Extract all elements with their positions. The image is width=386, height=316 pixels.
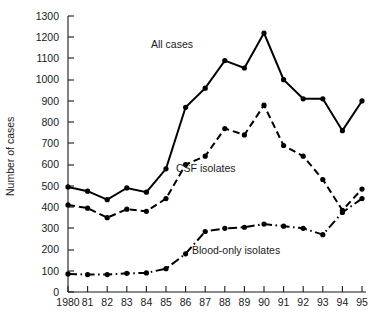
series-label-blood-only-isolates: Blood-only isolates: [192, 244, 280, 256]
x-tick-label: 95: [356, 296, 368, 308]
data-point: [144, 190, 149, 195]
data-point: [242, 65, 247, 70]
data-point: [124, 207, 129, 212]
data-point: [203, 86, 208, 91]
x-tick-label: 89: [239, 296, 251, 308]
data-point: [281, 143, 286, 148]
series-annotations: All cases CSF isolates Blood-only isolat…: [151, 38, 280, 256]
data-point: [242, 132, 247, 137]
data-point: [301, 96, 306, 101]
data-point: [340, 128, 345, 133]
data-point: [183, 251, 188, 256]
data-point: [85, 206, 90, 211]
x-tick-label: 88: [219, 296, 231, 308]
y-tick-label: 1200: [36, 31, 60, 43]
y-axis-ticks: [68, 16, 74, 292]
x-tick-label: 86: [180, 296, 192, 308]
data-point: [65, 184, 70, 189]
data-point: [163, 196, 168, 201]
data-point: [203, 229, 208, 234]
line-chart: Number of cases 0 100 200 300 400 500 60…: [0, 0, 386, 316]
series-all-cases: [65, 30, 364, 202]
x-tick-label: 84: [141, 296, 153, 308]
data-point: [340, 210, 345, 215]
data-point: [124, 271, 129, 276]
data-point: [320, 232, 325, 237]
data-point: [85, 189, 90, 194]
data-point: [163, 166, 168, 171]
x-tick-label: 91: [278, 296, 290, 308]
y-axis-title: Number of cases: [4, 117, 16, 196]
y-tick-label: 400: [41, 201, 59, 213]
x-tick-label: 81: [82, 296, 94, 308]
data-point: [144, 209, 149, 214]
data-point: [359, 196, 364, 201]
data-point: [222, 226, 227, 231]
data-point: [144, 270, 149, 275]
x-tick-label: 92: [297, 296, 309, 308]
data-point: [242, 225, 247, 230]
y-tick-label: 700: [41, 137, 59, 149]
y-tick-label: 900: [41, 95, 59, 107]
data-point: [281, 77, 286, 82]
data-point: [65, 202, 70, 207]
data-point: [359, 186, 364, 191]
y-tick-label: 1300: [36, 10, 60, 22]
x-tick-label: 93: [317, 296, 329, 308]
data-point: [203, 154, 208, 159]
data-point: [359, 98, 364, 103]
data-point: [301, 226, 306, 231]
data-point: [222, 126, 227, 131]
series-label-all-cases: All cases: [151, 38, 193, 50]
y-tick-label: 1000: [36, 73, 60, 85]
y-tick-label: 300: [41, 222, 59, 234]
x-tick-label: 94: [337, 296, 349, 308]
data-point: [124, 185, 129, 190]
data-point: [222, 58, 227, 63]
series-line: [68, 199, 362, 275]
data-point: [261, 221, 266, 226]
x-axis-tick-labels: 1980 81 82 83 84 85 86 87 88 89 90 91 92…: [56, 296, 368, 308]
y-tick-label: 600: [41, 158, 59, 170]
chart-container: Number of cases 0 100 200 300 400 500 60…: [0, 0, 386, 316]
x-tick-label: 82: [101, 296, 113, 308]
y-tick-label: 500: [41, 180, 59, 192]
data-point: [320, 177, 325, 182]
x-tick-label: 83: [121, 296, 133, 308]
y-axis-tick-labels: 0 100 200 300 400 500 600 700 800 900 10…: [36, 10, 60, 298]
data-point: [65, 271, 70, 276]
x-tick-label: 1980: [56, 296, 80, 308]
data-point: [261, 103, 266, 108]
series-layer: [65, 30, 364, 277]
data-point: [105, 215, 110, 220]
data-point: [261, 30, 266, 35]
x-tick-label: 90: [258, 296, 270, 308]
data-point: [320, 96, 325, 101]
data-point: [105, 197, 110, 202]
x-tick-label: 87: [199, 296, 211, 308]
data-point: [105, 272, 110, 277]
data-point: [163, 266, 168, 271]
y-tick-label: 800: [41, 116, 59, 128]
data-point: [281, 224, 286, 229]
y-tick-label: 100: [41, 265, 59, 277]
series-label-csf-isolates: CSF isolates: [176, 162, 236, 174]
data-point: [183, 105, 188, 110]
data-point: [85, 272, 90, 277]
x-axis-ticks: [68, 286, 362, 292]
x-tick-label: 85: [160, 296, 172, 308]
series-blood-only-isolates: [65, 196, 364, 277]
data-point: [301, 154, 306, 159]
y-tick-label: 200: [41, 243, 59, 255]
y-tick-label: 1100: [36, 52, 59, 64]
